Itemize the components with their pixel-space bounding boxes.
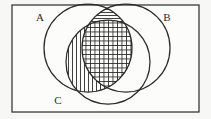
set-label-b: B [163, 11, 170, 23]
venn-diagram-canvas: A B C [0, 0, 211, 119]
set-label-c: C [54, 94, 61, 106]
venn-diagram-figure: A B C [0, 0, 211, 119]
region-A-and-B-and-C [0, 0, 211, 119]
set-label-a: A [36, 11, 44, 23]
